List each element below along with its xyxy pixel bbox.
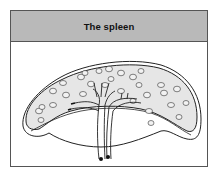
spleen-illustration: [1, 1, 219, 183]
figure-frame: The spleen: [10, 10, 208, 167]
